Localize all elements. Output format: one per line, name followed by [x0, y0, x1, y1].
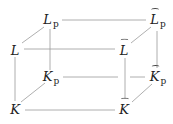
- edge-Kp-K: [21, 83, 45, 102]
- node-K-hat-p-sub: p: [160, 76, 166, 86]
- node-L-hat-p-sub: p: [160, 19, 166, 29]
- node-L-p-base: L: [43, 12, 52, 27]
- hat-accent: K: [150, 70, 160, 83]
- cube-edges: [0, 0, 173, 124]
- node-K-hat: K: [119, 103, 129, 116]
- node-L-hat-p: Lp: [150, 13, 165, 29]
- hat-accent: L: [150, 13, 159, 26]
- node-K-hat-p: Kp: [150, 70, 166, 86]
- node-K-hat-base: K: [119, 102, 129, 117]
- edge-Lp-L: [22, 27, 44, 43]
- node-K: K: [10, 103, 20, 116]
- node-K-p: Kp: [43, 70, 59, 86]
- node-K-p-sub: p: [53, 76, 59, 86]
- node-L: L: [11, 44, 20, 57]
- node-L-base: L: [11, 43, 20, 58]
- hat-accent: K: [119, 103, 129, 116]
- node-L-hat: L: [120, 44, 129, 57]
- node-L-hat-base: L: [120, 43, 129, 58]
- node-L-hat-p-base: L: [150, 12, 159, 27]
- hat-accent: L: [120, 44, 129, 57]
- edge-Khp-Kh: [132, 84, 152, 102]
- node-K-p-base: K: [43, 69, 53, 84]
- node-K-base: K: [10, 102, 20, 117]
- node-K-hat-p-base: K: [150, 69, 160, 84]
- node-L-p: Lp: [43, 13, 58, 29]
- node-L-p-sub: p: [53, 19, 59, 29]
- edge-Lhp-Lh: [131, 27, 151, 43]
